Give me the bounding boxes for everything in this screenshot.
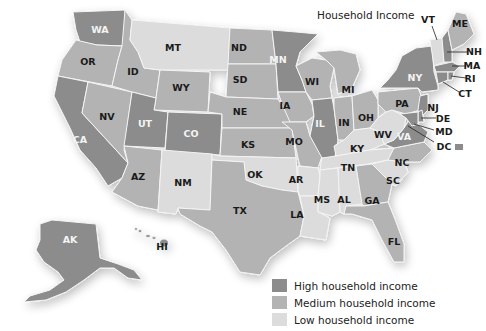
state-FL [344,202,404,262]
state-label-LA: LA [290,209,304,220]
state-label-CA: CA [73,134,88,145]
state-label-WV: WV [374,129,392,140]
state-label-OK: OK [247,169,263,180]
state-label-ND: ND [231,42,247,53]
state-label-IL: IL [315,118,325,129]
state-label-NY: NY [408,72,423,83]
leader-CT [443,82,459,92]
legend: High household income Medium household i… [272,277,435,328]
state-label-MO: MO [285,136,303,147]
legend-item-high: High household income [272,277,435,294]
state-label-FL: FL [388,236,401,247]
state-label-CT: CT [458,88,472,99]
state-label-AL: AL [337,194,350,205]
legend-label-low: Low household income [294,314,414,326]
legend-label-high: High household income [294,280,418,292]
state-label-KY: KY [350,143,364,154]
legend-swatch-low [272,313,287,326]
state-label-DC: DC [437,141,452,152]
state-label-NH: NH [466,46,482,57]
legend-swatch-medium [272,296,287,309]
state-label-ME: ME [452,18,468,29]
state-label-TX: TX [233,205,247,216]
state-label-MA: MA [464,60,481,71]
state-label-IN: IN [338,117,350,128]
state-label-KS: KS [241,139,255,150]
state-label-AK: AK [63,234,78,245]
state-label-MT: MT [165,42,181,53]
legend-label-medium: Medium household income [294,297,435,309]
map-title: Household Income [317,9,415,21]
state-label-ID: ID [127,66,139,77]
state-CT [436,72,448,84]
state-label-VA: VA [397,131,412,142]
state-label-AZ: AZ [131,171,145,182]
state-label-OR: OR [80,56,96,67]
state-label-VT: VT [421,14,435,25]
dc-swatch [455,144,463,150]
state-label-CO: CO [183,128,198,139]
state-label-MD: MD [435,126,452,137]
state-AK [24,220,142,302]
state-label-WI: WI [305,76,319,87]
state-label-PA: PA [395,98,409,109]
state-label-OH: OH [358,112,374,123]
state-label-WY: WY [172,82,189,93]
state-label-SD: SD [233,74,248,85]
legend-item-low: Low household income [272,311,435,328]
state-label-AR: AR [289,174,304,185]
state-label-MI: MI [342,84,355,95]
state-label-NV: NV [99,111,115,122]
state-label-TN: TN [341,162,355,173]
state-label-UT: UT [138,118,153,129]
state-NY [380,46,438,92]
state-label-SC: SC [386,175,400,186]
legend-swatch-high [272,279,287,292]
state-label-DE: DE [436,113,450,124]
state-label-GA: GA [364,195,380,206]
state-label-WA: WA [91,24,109,35]
state-label-NM: NM [174,177,191,188]
state-label-MN: MN [269,54,286,65]
state-label-NE: NE [233,106,247,117]
state-label-IA: IA [280,100,292,111]
state-MS [318,168,340,216]
state-label-RI: RI [465,73,476,84]
state-label-HI: HI [156,241,168,252]
legend-item-medium: Medium household income [272,294,435,311]
leader-VT [432,26,437,40]
state-label-MS: MS [314,194,330,205]
state-label-NJ: NJ [427,102,439,113]
state-label-NC: NC [395,157,410,168]
